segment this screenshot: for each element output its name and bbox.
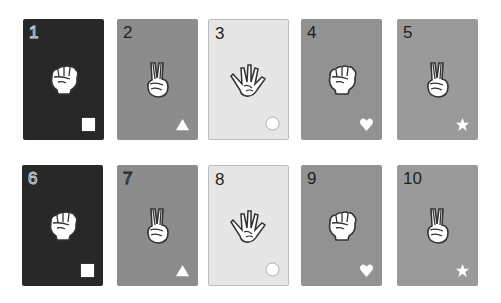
scissors-peace-icon: [138, 206, 178, 246]
square-suit-icon: [80, 263, 95, 278]
rock-fist-icon: [43, 206, 83, 246]
card-number: 5: [403, 23, 412, 43]
card-5[interactable]: 5: [397, 19, 478, 140]
star-suit-icon: [455, 263, 470, 278]
card-8[interactable]: 8: [208, 165, 289, 286]
rock-fist-icon: [44, 60, 84, 100]
card-2[interactable]: 2: [117, 19, 198, 140]
card-4[interactable]: 4: [301, 19, 382, 140]
rock-fist-icon: [322, 60, 362, 100]
card-7[interactable]: 7: [117, 165, 198, 286]
card-10[interactable]: 10: [397, 165, 478, 286]
circle-suit-icon: [265, 116, 280, 131]
paper-open-hand-icon: [229, 206, 269, 246]
card-number: 7: [123, 169, 132, 189]
rock-fist-icon: [322, 206, 362, 246]
heart-suit-icon: [359, 263, 374, 278]
square-suit-icon: [81, 117, 96, 132]
scissors-peace-icon: [418, 206, 458, 246]
circle-suit-icon: [265, 262, 280, 277]
card-number: 9: [307, 169, 316, 189]
scissors-peace-icon: [418, 60, 458, 100]
card-9[interactable]: 9: [301, 165, 382, 286]
scissors-peace-icon: [138, 60, 178, 100]
triangle-suit-icon: [175, 117, 190, 132]
card-1[interactable]: 1: [23, 19, 104, 140]
card-6[interactable]: 6: [22, 165, 103, 286]
card-number: 2: [123, 23, 132, 43]
card-number: 8: [215, 170, 224, 190]
paper-open-hand-icon: [229, 60, 269, 100]
triangle-suit-icon: [175, 263, 190, 278]
card-3[interactable]: 3: [208, 19, 289, 140]
card-number: 10: [403, 169, 422, 189]
card-number: 6: [28, 169, 37, 189]
card-number: 1: [29, 23, 38, 43]
heart-suit-icon: [359, 117, 374, 132]
card-number: 4: [307, 23, 316, 43]
card-number: 3: [215, 24, 224, 44]
star-suit-icon: [455, 117, 470, 132]
